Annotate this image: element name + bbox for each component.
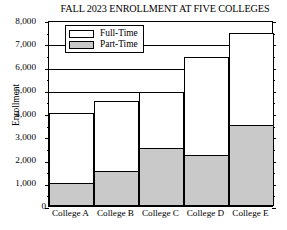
bar-segment-part-time[interactable] [229, 125, 274, 206]
legend-swatch-part-time [69, 41, 94, 49]
bar-group-college-d[interactable] [184, 57, 229, 206]
category-separator-2 [139, 92, 140, 206]
y-tick-label-4000: 4,000 [0, 110, 36, 119]
x-tick-label-college-e: College E [228, 208, 273, 219]
bar-segment-part-time[interactable] [139, 148, 184, 206]
y-tick-label-6000: 6,000 [0, 63, 36, 72]
bar-segment-part-time[interactable] [94, 171, 139, 206]
y-tick-label-1000: 1,000 [0, 179, 36, 188]
legend-entry-full-time: Full-Time [69, 28, 138, 39]
plot-area: Full-Time Part-Time [48, 21, 273, 207]
y-tick-label-zero: 0 [12, 202, 46, 211]
y-tick-label-3000: 3,000 [0, 133, 36, 142]
y-tick-label-7000: 7,000 [0, 40, 36, 49]
bar-group-college-c[interactable] [139, 92, 184, 206]
enrollment-bar-chart: FALL 2023 ENROLLMENT AT FIVE COLLEGES En… [0, 0, 287, 230]
legend-label-part-time: Part-Time [100, 40, 138, 49]
bar-segment-part-time[interactable] [184, 155, 229, 206]
x-tick-label-college-b: College B [93, 208, 138, 219]
y-tick-label-8000: 8,000 [0, 17, 36, 26]
category-separator-4 [229, 33, 230, 206]
chart-title: FALL 2023 ENROLLMENT AT FIVE COLLEGES [46, 3, 284, 14]
legend-swatch-full-time [69, 30, 94, 38]
legend-entry-part-time: Part-Time [69, 39, 138, 50]
y-tick-label-2000: 2,000 [0, 156, 36, 165]
x-axis-tick-labels: College ACollege BCollege CCollege DColl… [48, 208, 273, 224]
chart-legend: Full-Time Part-Time [65, 25, 144, 53]
bar-group-college-e[interactable] [229, 33, 274, 206]
bar-group-college-b[interactable] [94, 101, 139, 206]
category-separator-3 [184, 57, 185, 206]
y-tick-label-5000: 5,000 [0, 86, 36, 95]
x-tick-label-college-d: College D [183, 208, 228, 219]
legend-label-full-time: Full-Time [100, 29, 138, 38]
tick-right-8000 [272, 22, 276, 23]
x-tick-label-college-a: College A [48, 208, 93, 219]
bar-group-college-a[interactable] [49, 113, 94, 206]
x-tick-label-college-c: College C [138, 208, 183, 219]
bar-segment-part-time[interactable] [49, 183, 94, 206]
category-separator-1 [94, 101, 95, 206]
